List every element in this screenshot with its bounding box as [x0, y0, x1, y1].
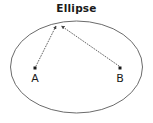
diagram-canvas: [0, 0, 153, 123]
focus-a-marker: [34, 67, 37, 70]
focus-a-label: A: [28, 73, 42, 84]
segment-a-to-p: [36, 26, 56, 66]
focus-b-marker: [119, 67, 122, 70]
ellipse-figure: Ellipse A B: [0, 0, 153, 123]
focus-b-label: B: [113, 73, 127, 84]
segment-b-to-p: [62, 26, 120, 66]
ellipse-outline: [11, 21, 143, 113]
